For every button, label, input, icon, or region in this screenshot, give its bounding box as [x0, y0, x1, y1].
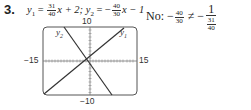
- fraction-denominator: 30: [113, 11, 120, 18]
- ymax-label: 10: [82, 16, 91, 26]
- fraction-denominator: 3140: [207, 17, 216, 32]
- y1-series-label: y1: [120, 27, 127, 39]
- fraction-denominator: 30: [176, 18, 183, 25]
- answer-prefix: No: −: [146, 9, 174, 23]
- inner-denominator: 40: [208, 25, 215, 32]
- xmin-label: −15: [24, 55, 38, 65]
- y1-rest: x + 2;: [57, 4, 85, 15]
- problem-number: 3.: [4, 2, 15, 17]
- fraction-numerator: 1: [206, 3, 216, 16]
- y2-eq: = −: [94, 4, 111, 15]
- fraction-denominator: 40: [48, 11, 55, 18]
- answer-relation: ≠ −: [185, 9, 204, 23]
- y2-slope-fraction: 4030: [112, 3, 121, 18]
- y1-slope-fraction: 3140: [47, 3, 56, 18]
- answer-fraction: 4030: [175, 10, 184, 25]
- reciprocal-fraction: 13140: [206, 3, 216, 32]
- y1-eq: =: [35, 4, 46, 15]
- y2-series-label: y2: [56, 27, 63, 39]
- xmax-label: 15: [139, 55, 148, 65]
- y2-rest: x − 1: [122, 4, 144, 15]
- answer: No: −4030 ≠ −13140: [146, 3, 216, 32]
- ymin-label: −10: [80, 96, 94, 106]
